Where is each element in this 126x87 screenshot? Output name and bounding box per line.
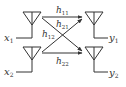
rx-antenna-1 [85,12,108,38]
tx-antenna-2 [16,47,41,72]
mimo-diagram: x1 x2 y1 y2 h11 h21 h12 h22 [0,0,126,87]
label-h11: h11 [56,5,69,16]
rx-antenna-2 [85,47,108,72]
label-h22: h22 [56,56,69,67]
label-y1: y1 [108,32,118,44]
label-x1: x1 [4,32,13,44]
tx-antenna-1 [16,12,41,38]
label-y2: y2 [108,67,119,79]
label-h12: h12 [42,29,55,40]
label-h21: h21 [56,19,69,30]
label-x2: x2 [4,66,14,78]
